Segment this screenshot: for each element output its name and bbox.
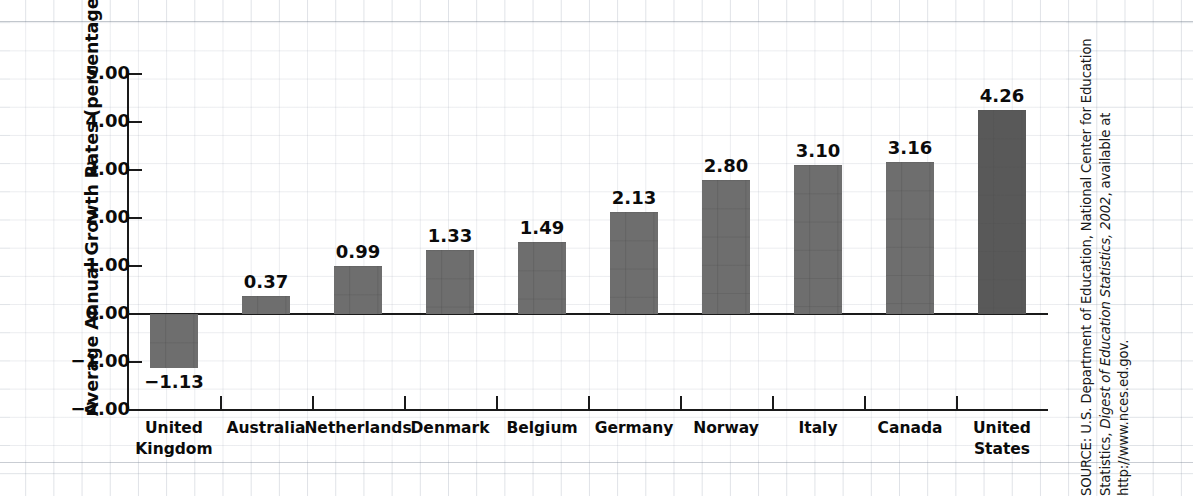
y-axis-tick-label: 5.00	[20, 62, 130, 83]
bar[interactable]	[610, 212, 658, 314]
y-axis-tick-label: 2.00	[20, 206, 130, 227]
y-axis-tick-label: 1.00	[20, 254, 130, 275]
bar-value-label: 4.26	[942, 85, 1062, 106]
y-axis-tick	[129, 169, 142, 171]
x-axis-tick	[220, 396, 222, 410]
bar-value-label: 2.13	[574, 187, 694, 208]
y-axis-tick	[129, 361, 142, 363]
y-axis-tick-label: −2.00	[20, 398, 130, 419]
bar-value-label: −1.13	[114, 371, 234, 392]
y-axis-tick	[129, 217, 142, 219]
y-axis-tick-label: 4.00	[20, 110, 130, 131]
bar[interactable]	[242, 296, 290, 314]
x-axis-tick	[772, 396, 774, 410]
bar[interactable]	[702, 180, 750, 314]
bar[interactable]	[518, 242, 566, 314]
x-axis-tick	[404, 396, 406, 410]
y-axis-tick	[129, 73, 142, 75]
bar-value-label: 0.37	[206, 271, 326, 292]
bar[interactable]	[150, 314, 198, 368]
bar[interactable]	[886, 162, 934, 314]
source-title-italic: Digest of Education Statistics, 2002	[1098, 197, 1113, 429]
bar[interactable]	[426, 250, 474, 314]
bar[interactable]	[794, 165, 842, 314]
y-axis-tick-label: 3.00	[20, 158, 130, 179]
y-axis-tick	[129, 121, 142, 123]
x-axis-category-label: UnitedStates	[932, 418, 1072, 460]
y-axis-tick-label: −1.00	[20, 350, 130, 371]
bar-value-label: 1.49	[482, 217, 602, 238]
x-axis-tick	[496, 396, 498, 410]
x-axis-tick	[956, 396, 958, 410]
paper-edge-bottom	[0, 462, 1193, 463]
source-note: SOURCE: U.S. Department of Education, Na…	[1078, 0, 1182, 496]
x-axis-tick	[312, 396, 314, 410]
bar-value-label: 3.16	[850, 137, 970, 158]
y-axis-tick-label: 0.00	[20, 302, 130, 323]
x-axis-tick	[680, 396, 682, 410]
y-axis-tick	[129, 265, 142, 267]
bar[interactable]	[334, 266, 382, 314]
x-axis-tick	[588, 396, 590, 410]
figure-bar-chart: Average Annual Growth Rates (percentage)…	[0, 0, 1193, 496]
x-axis-tick	[864, 396, 866, 410]
bar[interactable]	[978, 110, 1026, 314]
